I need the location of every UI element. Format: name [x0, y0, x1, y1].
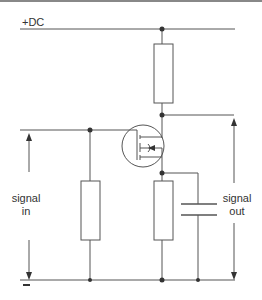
input-label: signal in — [8, 192, 44, 218]
supply-label: +DC — [22, 16, 44, 29]
output-label-line1: signal — [219, 192, 255, 205]
mosfet — [122, 125, 164, 173]
input-label-line2: in — [8, 205, 44, 218]
input-label-line1: signal — [8, 192, 44, 205]
gate-resistor — [81, 181, 100, 240]
source-resistor — [154, 181, 173, 240]
drain-resistor — [154, 44, 173, 103]
circuit-diagram — [0, 0, 262, 300]
output-label: signal out — [219, 192, 255, 218]
output-label-line2: out — [219, 205, 255, 218]
